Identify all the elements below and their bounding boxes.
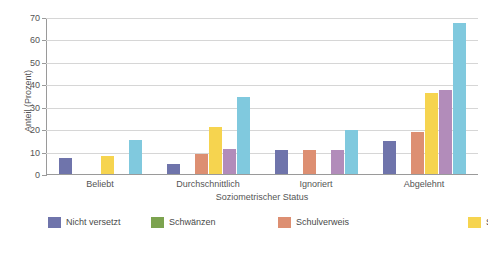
- x-axis-tick-label: Beliebt: [46, 179, 154, 189]
- legend-label: Schulverweis: [296, 217, 349, 227]
- bar: [345, 130, 358, 175]
- bar-groups: [46, 18, 478, 175]
- bar: [303, 150, 316, 175]
- bar: [425, 93, 438, 175]
- x-axis-title: Soziometrischer Status: [46, 192, 478, 202]
- bar: [275, 150, 288, 175]
- legend-item[interactable]: Schulverweis: [278, 217, 468, 228]
- bar: [223, 149, 236, 175]
- bar: [453, 23, 466, 176]
- x-axis-tick-label: Abgelehnt: [370, 179, 478, 189]
- legend-swatch-icon: [278, 217, 291, 228]
- bar-group: [46, 18, 154, 175]
- bar: [439, 90, 452, 175]
- legend-swatch-icon: [48, 217, 61, 228]
- bar: [129, 140, 142, 175]
- chart-legend: Nicht versetztSchwänzenSchulverweisSchul…: [48, 214, 468, 230]
- plot-area: [46, 18, 478, 175]
- legend-item[interactable]: Nicht versetzt: [48, 217, 151, 228]
- bar-group: [370, 18, 478, 175]
- y-axis-tick-label: 70: [6, 13, 40, 23]
- x-axis-line: [46, 174, 478, 175]
- legend-swatch-icon: [151, 217, 164, 228]
- bar: [289, 150, 302, 175]
- legend-item[interactable]: Schulabbruch: [468, 217, 488, 228]
- bar-chart: 010203040506070 Anteil (Prozent) Beliebt…: [0, 0, 488, 259]
- bar: [195, 154, 208, 175]
- legend-swatch-icon: [468, 217, 481, 228]
- bar: [237, 97, 250, 176]
- bar: [181, 151, 194, 175]
- x-axis-tick-label: Ignoriert: [262, 179, 370, 189]
- x-axis-tick-label: Durchschnittlich: [154, 179, 262, 189]
- bar: [331, 150, 344, 175]
- bar: [101, 156, 114, 175]
- bar-group: [262, 18, 370, 175]
- legend-label: Nicht versetzt: [66, 217, 121, 227]
- bar: [209, 127, 222, 175]
- bar: [59, 158, 72, 175]
- bar-group: [154, 18, 262, 175]
- bar: [383, 141, 396, 175]
- y-axis-title: Anteil (Prozent): [23, 26, 33, 176]
- bar: [73, 158, 86, 175]
- legend-label: Schwänzen: [169, 217, 216, 227]
- bar: [397, 125, 410, 175]
- legend-item[interactable]: Schwänzen: [151, 217, 278, 228]
- bar: [411, 132, 424, 175]
